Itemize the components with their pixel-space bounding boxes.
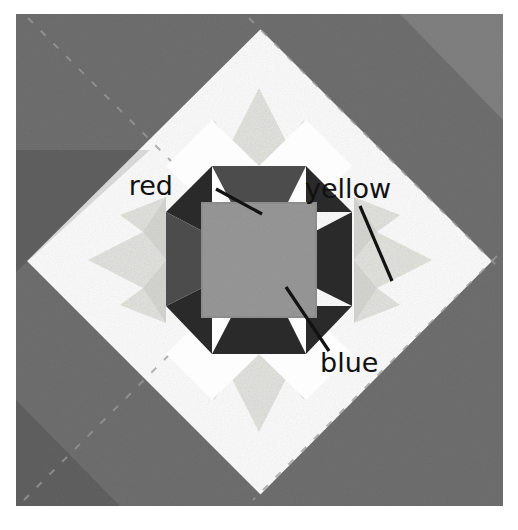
quilt-photograph: red yellow blue xyxy=(0,0,518,530)
centre-square xyxy=(202,203,316,317)
annotation-label-blue: blue xyxy=(320,347,378,378)
annotation-label-red: red xyxy=(129,170,173,201)
quilt-block xyxy=(16,14,503,506)
quilt-block-image: red yellow blue xyxy=(0,0,518,530)
annotation-label-yellow: yellow xyxy=(305,173,391,204)
